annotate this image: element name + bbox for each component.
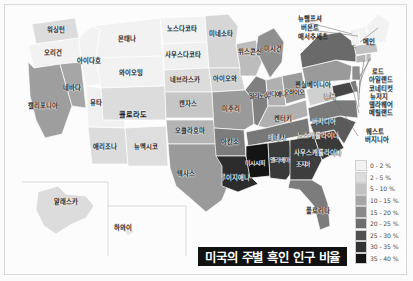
state-AR[interactable] bbox=[214, 128, 246, 156]
state-NE[interactable] bbox=[164, 68, 212, 92]
state-NJ[interactable] bbox=[352, 66, 360, 80]
legend-swatch-8 bbox=[355, 253, 367, 264]
state-HI[interactable] bbox=[122, 226, 134, 236]
legend-row[interactable]: 25 - 30 % bbox=[355, 230, 409, 242]
legend-label-3: 10 - 15 % bbox=[370, 197, 398, 204]
map-figure: 워싱턴 오리건 캘리포니아 네바다 아이다호 몬태나 와이오밍 유타 애리조나 … bbox=[0, 0, 413, 281]
legend-label-4: 15 - 20 % bbox=[370, 209, 398, 216]
state-CT[interactable] bbox=[356, 54, 366, 63]
legend-label-0: 0 - 2 % bbox=[370, 162, 391, 169]
state-WY[interactable] bbox=[96, 56, 165, 88]
state-AZ[interactable] bbox=[88, 127, 128, 164]
legend-label-2: 5 - 10 % bbox=[370, 185, 395, 192]
us-states-choropleth bbox=[0, 0, 413, 281]
legend-swatch-2 bbox=[355, 183, 367, 194]
state-MN[interactable] bbox=[205, 14, 240, 68]
legend-row[interactable]: 15 - 20 % bbox=[355, 206, 409, 218]
state-FL[interactable] bbox=[288, 180, 330, 230]
legend-label-1: 2 - 5 % bbox=[370, 174, 391, 181]
state-MT[interactable] bbox=[92, 18, 163, 58]
map-canvas: 워싱턴 오리건 캘리포니아 네바다 아이다호 몬태나 와이오밍 유타 애리조나 … bbox=[0, 0, 413, 281]
legend-swatch-4 bbox=[355, 206, 367, 217]
legend-label-8: 35 - 40 % bbox=[370, 255, 398, 262]
legend-row[interactable]: 10 - 15 % bbox=[355, 195, 409, 207]
legend-label-6: 25 - 30 % bbox=[370, 232, 398, 239]
map-title: 미국의 주별 흑인 인구 비율 bbox=[198, 247, 347, 266]
state-ND[interactable] bbox=[160, 16, 207, 44]
legend-swatch-0 bbox=[355, 160, 367, 171]
legend-label-7: 30 - 35 % bbox=[370, 243, 398, 250]
state-MO[interactable] bbox=[212, 90, 254, 130]
legend-row[interactable]: 30 - 35 % bbox=[355, 241, 409, 253]
state-AK[interactable] bbox=[36, 186, 94, 234]
state-MS[interactable] bbox=[246, 143, 270, 178]
state-KS[interactable] bbox=[165, 92, 214, 118]
state-OH[interactable] bbox=[282, 72, 306, 104]
legend-row[interactable]: 35 - 40 % bbox=[355, 253, 409, 265]
legend-label-5: 20 - 25 % bbox=[370, 220, 398, 227]
state-OK[interactable] bbox=[166, 120, 216, 144]
legend-row[interactable]: 5 - 10 % bbox=[355, 183, 409, 195]
legend-swatch-3 bbox=[355, 195, 367, 206]
legend: 0 - 2 % 2 - 5 % 5 - 10 % 10 - 15 % 15 - … bbox=[355, 160, 409, 264]
legend-swatch-6 bbox=[355, 230, 367, 241]
legend-row[interactable]: 0 - 2 % bbox=[355, 160, 409, 172]
legend-row[interactable]: 20 - 25 % bbox=[355, 218, 409, 230]
legend-swatch-5 bbox=[355, 218, 367, 229]
state-NM[interactable] bbox=[125, 126, 168, 166]
legend-row[interactable]: 2 - 5 % bbox=[355, 172, 409, 184]
state-SD[interactable] bbox=[163, 42, 209, 70]
state-AL[interactable] bbox=[268, 140, 292, 180]
legend-swatch-7 bbox=[355, 241, 367, 252]
state-ME[interactable] bbox=[366, 14, 390, 44]
state-RI[interactable] bbox=[366, 53, 371, 62]
state-CO[interactable] bbox=[101, 86, 166, 120]
state-IA[interactable] bbox=[209, 68, 245, 92]
state-MI[interactable] bbox=[256, 28, 284, 78]
legend-swatch-1 bbox=[355, 172, 367, 183]
